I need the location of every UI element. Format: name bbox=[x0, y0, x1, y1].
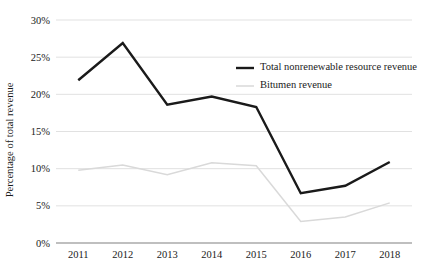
x-axis-tick-labels: 20112012201320142015201620172018 bbox=[68, 249, 400, 260]
y-tick-label: 0% bbox=[36, 238, 50, 249]
y-axis-title: Percentage of total revenue bbox=[4, 82, 15, 197]
chart-legend: Total nonrenewable resource revenueBitum… bbox=[236, 61, 417, 90]
x-tick-label: 2016 bbox=[290, 249, 311, 260]
chart-container: 0%5%10%15%20%25%30% 20112012201320142015… bbox=[0, 0, 427, 271]
x-tick-label: 2017 bbox=[335, 249, 356, 260]
x-tick-label: 2013 bbox=[157, 249, 178, 260]
y-axis-tick-labels: 0%5%10%15%20%25%30% bbox=[31, 15, 51, 249]
y-tick-label: 15% bbox=[31, 126, 51, 137]
y-tick-label: 25% bbox=[31, 52, 51, 63]
x-tick-label: 2011 bbox=[68, 249, 89, 260]
line-chart: 0%5%10%15%20%25%30% 20112012201320142015… bbox=[0, 0, 427, 271]
x-tick-label: 2014 bbox=[201, 249, 223, 260]
x-tick-label: 2012 bbox=[112, 249, 133, 260]
y-tick-label: 30% bbox=[31, 15, 51, 26]
y-tick-label: 10% bbox=[31, 163, 51, 174]
y-tick-label: 20% bbox=[31, 89, 51, 100]
x-tick-label: 2018 bbox=[379, 249, 400, 260]
series-line-bitumen bbox=[78, 163, 390, 222]
legend-label-bitumen: Bitumen revenue bbox=[260, 79, 332, 90]
x-tick-label: 2015 bbox=[246, 249, 267, 260]
y-tick-label: 5% bbox=[36, 200, 50, 211]
legend-label-total-nonrenewable: Total nonrenewable resource revenue bbox=[260, 61, 417, 72]
